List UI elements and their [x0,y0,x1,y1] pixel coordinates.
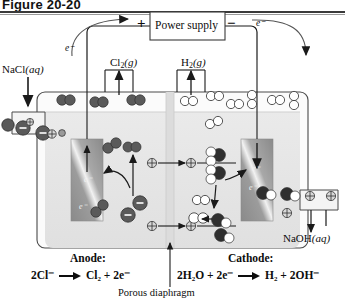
hydrogen-gas-label: H2(g) [181,57,206,70]
electron-label-right: e⁻ [256,19,265,29]
figure-container: Figure 20-20 [0,0,345,304]
brine-formula: NaCl [2,63,25,75]
electron-label-left: e⁻ [65,44,74,54]
anode-products: Cl₂ + 2e⁻ [86,269,130,281]
brine-state: (aq) [25,63,43,75]
cathode-equation: 2H₂O + 2e⁻ H₂ + 2OH⁻ [177,270,319,282]
electrolysis-cell-diagram [0,0,345,304]
cathode-products: H₂ + 2OH⁻ [265,269,319,281]
porous-diaphragm [166,92,174,248]
chlorine-gas-label: Cl2(g) [110,57,137,70]
cathode-electron-mark-1: e⁻ [252,165,260,173]
caustic-outlet-arrows [311,210,326,232]
cathode-reaction-arrow-icon [238,272,260,281]
positive-terminal-label: + [137,16,146,31]
anode-equation: 2Cl⁻ Cl₂ + 2e⁻ [31,270,130,282]
anode-heading: Anode: [70,253,106,265]
anode-electrode [71,60,103,221]
hydrogen-formula: H [181,56,189,68]
anode-reaction-arrow-icon [59,272,81,281]
caustic-state: (aq) [312,232,330,244]
anode-reactants: 2Cl⁻ [31,269,54,281]
hydrogen-state: (g) [193,56,206,68]
power-supply-label: Power supply [155,20,218,32]
brine-inlet-label: NaCl(aq) [2,64,44,75]
cathode-reactants: 2H₂O + 2e⁻ [177,269,233,281]
cathode-heading: Cathode: [228,253,273,265]
chlorine-formula: Cl [110,56,120,68]
anode-electron-mark-2: e⁻ [79,203,87,211]
chlorine-state: (g) [124,56,137,68]
negative-terminal-label: − [227,16,236,31]
anode-electron-mark-1: e⁻ [84,176,92,184]
cathode-electron-mark-2: e⁻ [249,184,257,192]
porous-diaphragm-label: Porous diaphragm [118,288,195,299]
caustic-formula: NaOH [283,232,312,244]
caustic-outlet-label: NaOH(aq) [283,233,330,244]
electron-flow-curve-left [72,19,128,56]
